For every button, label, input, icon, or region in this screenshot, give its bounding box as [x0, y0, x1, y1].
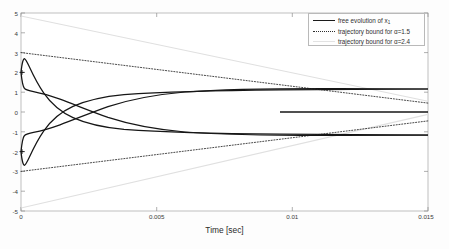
legend-label-bound-alpha15: trajectory bound for α=1.5: [338, 28, 410, 35]
y-tick-label-2: 2: [2, 69, 18, 76]
legend-line-sample-solid-icon: [313, 16, 335, 25]
y-tick-label-neg2: -2: [2, 149, 18, 156]
y-tick-label-neg3: -3: [2, 168, 18, 175]
figure-canvas: 5 4 3 2 1 0 -1 -2 -3 -4 -5 0 0.005 0.01 …: [0, 0, 449, 249]
y-tick-label-3: 3: [2, 50, 18, 57]
x-tick-label-0: 0: [1, 213, 41, 220]
legend-line-sample-dotted-icon: [313, 27, 335, 36]
y-tick-label-5: 5: [2, 10, 18, 17]
x-axis-label: Time [sec]: [0, 225, 449, 235]
legend-label-free-evolution: free evolution of x1: [338, 17, 390, 25]
legend-entry-free-evolution: free evolution of x1: [309, 15, 426, 26]
legend-label-bound-alpha24: trajectory bound for α=2.4: [338, 38, 410, 45]
y-tick-label-1: 1: [2, 89, 18, 96]
y-tick-label-neg1: -1: [2, 129, 18, 136]
y-tick-label-0: 0: [2, 109, 18, 116]
x-tick-label-0005: 0.005: [137, 213, 177, 220]
legend-entry-bound-alpha24: trajectory bound for α=2.4: [309, 36, 426, 47]
x-tick-label-001: 0.01: [272, 213, 312, 220]
y-tick-label-neg4: -4: [2, 188, 18, 195]
legend-box: free evolution of x1 trajectory bound fo…: [308, 13, 425, 46]
legend-line-sample-faint-icon: [313, 37, 335, 46]
x-tick-label-0015: 0.015: [406, 213, 446, 220]
y-tick-label-4: 4: [2, 30, 18, 37]
